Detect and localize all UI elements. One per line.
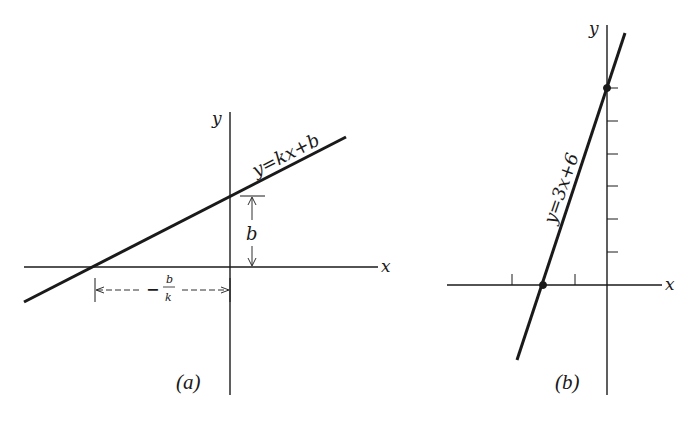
xint-sign: − [146,280,159,299]
axis-y-label-b: y [588,18,599,38]
line-3x-plus-6 [517,33,625,360]
panel-b: x y y=3x+6 (b) [447,18,675,395]
y-ticks-b [607,88,618,252]
axis-x-label-a: x [381,256,391,276]
point-x-intercept [540,282,547,289]
line-kx-plus-b [24,137,346,302]
xint-numerator: b [166,273,173,286]
axis-y-label-a: y [211,108,222,128]
xint-denominator: k [165,291,172,304]
point-y-intercept [604,85,611,92]
figure: b − b k x y y=kx+b (a) [0,0,699,425]
caption-b: (b) [555,370,580,394]
axis-x-label-b: x [665,274,675,294]
equation-label-b: y=3x+6 [539,150,583,227]
caption-a: (a) [176,370,201,394]
panel-a: b − b k x y y=kx+b (a) [24,108,391,395]
intercept-label-b: b [246,223,258,244]
